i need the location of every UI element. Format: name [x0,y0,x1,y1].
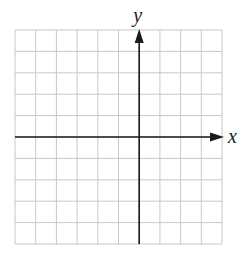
coordinate-grid: x y [0,0,242,253]
x-axis-label: x [227,125,237,147]
y-axis-label: y [131,4,142,27]
y-axis-arrow-icon [135,29,144,43]
axes [15,29,224,244]
